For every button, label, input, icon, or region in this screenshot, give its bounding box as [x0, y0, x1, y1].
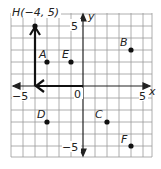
translation-path — [30, 27, 83, 92]
label-h: H(−4, 5) — [12, 6, 59, 19]
label-e: E — [62, 48, 69, 61]
origin-label: 0 — [74, 88, 81, 101]
point-c — [104, 119, 109, 124]
label-f: F — [121, 133, 128, 146]
label-b: B — [120, 36, 128, 49]
point-b — [128, 47, 133, 52]
x-axis-left-arrow-icon — [13, 83, 20, 89]
label-c: C — [95, 108, 103, 121]
y-tick-neg5: −5 — [62, 141, 78, 154]
x-tick-neg5: −5 — [12, 90, 28, 103]
x-axis-label: x — [148, 85, 156, 98]
y-axis-label: y — [87, 10, 95, 23]
point-h — [32, 23, 37, 28]
label-a: A — [38, 48, 47, 61]
label-d: D — [37, 108, 45, 121]
point-f — [128, 143, 133, 148]
y-tick-5: 5 — [71, 20, 78, 33]
coordinate-plane: H(−4, 5) A E B D C F 5 y 0 −5 5 x −5 — [0, 0, 161, 169]
x-tick-5: 5 — [139, 90, 146, 103]
point-e — [68, 59, 73, 64]
